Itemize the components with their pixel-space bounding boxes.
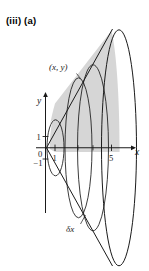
x-tick-label-5: 5 xyxy=(109,153,113,163)
x-axis-group: x 1 5 xyxy=(36,145,140,163)
figure-root: (iii) (a) x 1 5 xyxy=(0,0,149,271)
y-axis-label: y xyxy=(36,96,42,106)
generating-line-lower xyxy=(47,148,113,266)
point-label: (x, y) xyxy=(49,62,67,72)
x-tick-label-1: 1 xyxy=(53,153,57,163)
element-label-group: δx xyxy=(66,215,86,234)
shaded-solid-region xyxy=(48,31,120,153)
x-axis-label: x xyxy=(134,147,140,157)
y-tick-label-positive-1: 1 xyxy=(37,132,41,142)
point-marker-group: (x, y) xyxy=(49,62,81,79)
solid-of-revolution-diagram: x 1 5 y 1 0 −1 xyxy=(0,0,149,271)
element-label: δx xyxy=(66,224,74,234)
y-tick-label-negative-1: −1 xyxy=(34,158,43,168)
y-axis-group: y 1 0 −1 xyxy=(34,96,49,213)
